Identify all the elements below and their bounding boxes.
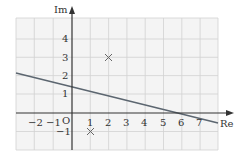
origin-label: O (62, 115, 70, 126)
x-tick: 1 (87, 117, 93, 128)
re-arrow-icon (226, 110, 234, 116)
x-axis-label: Re (220, 118, 234, 129)
grid-background (16, 18, 218, 150)
argand-diagram: Im Re O −2 −1 1 2 3 4 5 6 7 4 3 2 1 −1 (0, 0, 241, 160)
y-tick: −1 (56, 126, 71, 137)
x-tick: −2 (28, 117, 43, 128)
y-tick: 4 (62, 33, 68, 44)
x-tick: 6 (178, 117, 184, 128)
x-tick: 4 (141, 117, 147, 128)
y-tick: 2 (62, 70, 68, 81)
y-axis-label: Im (54, 4, 68, 15)
im-arrow-icon (69, 6, 75, 14)
x-tick: 3 (123, 117, 129, 128)
x-tick: 2 (105, 117, 111, 128)
x-tick: 7 (196, 117, 202, 128)
x-tick: 5 (160, 117, 166, 128)
y-tick: 1 (62, 88, 68, 99)
y-tick: 3 (62, 52, 68, 63)
